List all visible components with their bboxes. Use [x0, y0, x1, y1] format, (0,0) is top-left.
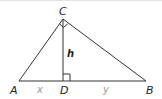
segment-label-h: h: [67, 48, 74, 59]
vertex-label-d: D: [60, 84, 68, 97]
segment-label-y: y: [102, 84, 110, 95]
side-ac: [19, 19, 63, 81]
triangle-diagram: C A D B x y h: [0, 0, 162, 99]
side-cb: [63, 19, 146, 81]
vertex-label-a: A: [9, 84, 18, 97]
vertex-label-b: B: [146, 84, 154, 97]
right-angle-mark-d: [63, 74, 70, 81]
vertex-label-c: C: [59, 5, 67, 18]
segment-label-x: x: [36, 84, 43, 95]
